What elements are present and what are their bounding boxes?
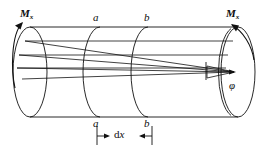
section-label-b-top: b bbox=[144, 12, 150, 23]
left-end-ellipse bbox=[13, 27, 47, 117]
moment-label-left: Mx bbox=[20, 8, 33, 21]
longitudinal-fibers bbox=[17, 41, 233, 68]
moment-left-symbol: M bbox=[20, 7, 30, 19]
dx-arrowhead-left bbox=[104, 134, 110, 139]
twisted-fiber-4 bbox=[25, 41, 234, 72]
section-label-a-top: a bbox=[93, 12, 99, 23]
twisted-fiber-1 bbox=[19, 55, 234, 72]
moment-right-symbol: M bbox=[226, 7, 236, 19]
torsion-diagram-canvas bbox=[0, 0, 275, 152]
twist-angle-label: φ bbox=[229, 80, 235, 91]
phi-arrowhead bbox=[229, 69, 236, 74]
dx-arrowhead-right bbox=[139, 134, 145, 139]
moment-left-subscript: x bbox=[30, 13, 34, 21]
torque-arrowhead-right bbox=[231, 24, 239, 32]
cross-section-arcs bbox=[83, 27, 148, 117]
torque-arrowhead-left bbox=[15, 22, 23, 30]
twisted-fiber-3 bbox=[22, 72, 234, 79]
twisted-fiber-2 bbox=[17, 68, 234, 72]
section-label-a-bottom: a bbox=[93, 118, 99, 129]
section-b-arc bbox=[131, 27, 148, 117]
torsion-diagram-figure: Mx Mx a b a b φ dx bbox=[0, 0, 275, 152]
dimension-label-dx: dx bbox=[114, 129, 124, 140]
moment-label-right: Mx bbox=[226, 8, 239, 21]
twisted-fibers bbox=[17, 41, 234, 79]
section-a-arc bbox=[83, 27, 100, 117]
moment-right-subscript: x bbox=[236, 13, 240, 21]
section-label-b-bottom: b bbox=[144, 118, 150, 129]
dx-x-char: x bbox=[120, 128, 125, 140]
left-end-cap bbox=[13, 27, 47, 117]
